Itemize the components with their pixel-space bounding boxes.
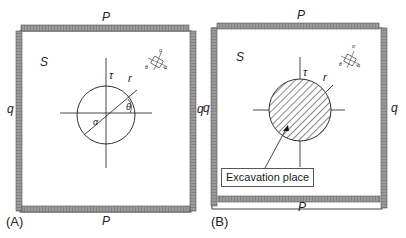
label-medium: S (236, 50, 244, 64)
caption-b: (B) (211, 214, 228, 229)
excavation-circle (269, 79, 331, 141)
label-left-load: q (203, 101, 210, 115)
top-load-bar (21, 25, 189, 31)
excavation-callout: Excavation place (221, 168, 314, 187)
right-load-bar (381, 28, 387, 208)
left-load-bar (211, 28, 217, 206)
label-bottom-load: P (102, 214, 110, 228)
top-load-bar (217, 23, 379, 29)
label-element-theta: θ (145, 64, 148, 70)
label-alpha: α (93, 117, 99, 127)
right-load-bar (190, 31, 196, 211)
panel-a (16, 25, 196, 212)
label-bottom-load: P (298, 200, 306, 214)
bottom-load-bar (22, 206, 190, 212)
label-medium: S (40, 55, 48, 69)
label-left-load: q (7, 102, 14, 116)
caption-a: (A) (6, 214, 23, 229)
label-top-load: P (297, 8, 305, 22)
label-right-load: q (391, 101, 398, 115)
label-top-load: P (102, 10, 110, 24)
left-load-bar (16, 31, 22, 211)
diagram-canvas: P P q q S τ r θ α σ σ θ P P q q S τ r σ … (0, 0, 406, 238)
label-theta: θ (126, 102, 131, 112)
label-element-theta: θ (339, 61, 342, 67)
